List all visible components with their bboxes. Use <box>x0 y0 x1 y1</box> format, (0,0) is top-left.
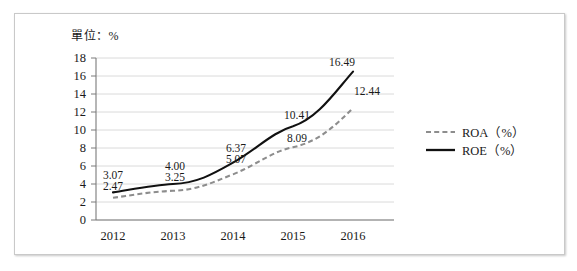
chart-figure-frame: 單位：% <box>14 13 565 255</box>
ytick-label-14: 14 <box>74 87 87 101</box>
xtick-label-2014: 2014 <box>221 229 247 243</box>
data-label-roa-2016: 12.44 <box>354 85 380 97</box>
ytick-label-8: 8 <box>80 141 86 155</box>
chart-legend: ROA（%） ROE（%） <box>426 126 525 158</box>
legend-label-roe[interactable]: ROE（%） <box>462 144 523 158</box>
ytick-label-4: 4 <box>80 177 87 191</box>
data-label-roe-2015: 10.41 <box>284 109 310 121</box>
data-label-roa-2015: 8.09 <box>287 132 307 144</box>
ytick-label-16: 16 <box>74 69 87 83</box>
ytick-label-10: 10 <box>74 123 87 137</box>
ytick-label-6: 6 <box>80 159 86 173</box>
x-axis: 2012 2013 2014 2015 2016 <box>96 220 394 243</box>
gridlines <box>96 58 394 220</box>
xtick-label-2016: 2016 <box>341 229 366 243</box>
ytick-label-12: 12 <box>74 105 87 119</box>
legend-label-roa[interactable]: ROA（%） <box>462 126 525 140</box>
data-labels-roa: 2.47 3.25 5.07 8.09 12.44 <box>103 85 380 192</box>
xtick-label-2013: 2013 <box>161 229 186 243</box>
xtick-label-2015: 2015 <box>281 229 306 243</box>
ytick-label-0: 0 <box>80 213 86 227</box>
ytick-label-2: 2 <box>80 195 86 209</box>
data-label-roa-2013: 3.25 <box>165 171 185 183</box>
y-axis: 18 16 14 12 10 8 6 4 2 0 <box>74 51 97 227</box>
line-chart-svg: 18 16 14 12 10 8 6 4 2 0 2012 2013 2014 … <box>15 14 566 256</box>
data-label-roe-2016: 16.49 <box>329 56 355 68</box>
xtick-label-2012: 2012 <box>101 229 126 243</box>
data-label-roa-2014: 5.07 <box>226 153 246 165</box>
data-label-roa-2012: 2.47 <box>103 180 123 192</box>
chart-plot-wrapper: 18 16 14 12 10 8 6 4 2 0 2012 2013 2014 … <box>15 14 566 256</box>
ytick-label-18: 18 <box>74 51 87 65</box>
